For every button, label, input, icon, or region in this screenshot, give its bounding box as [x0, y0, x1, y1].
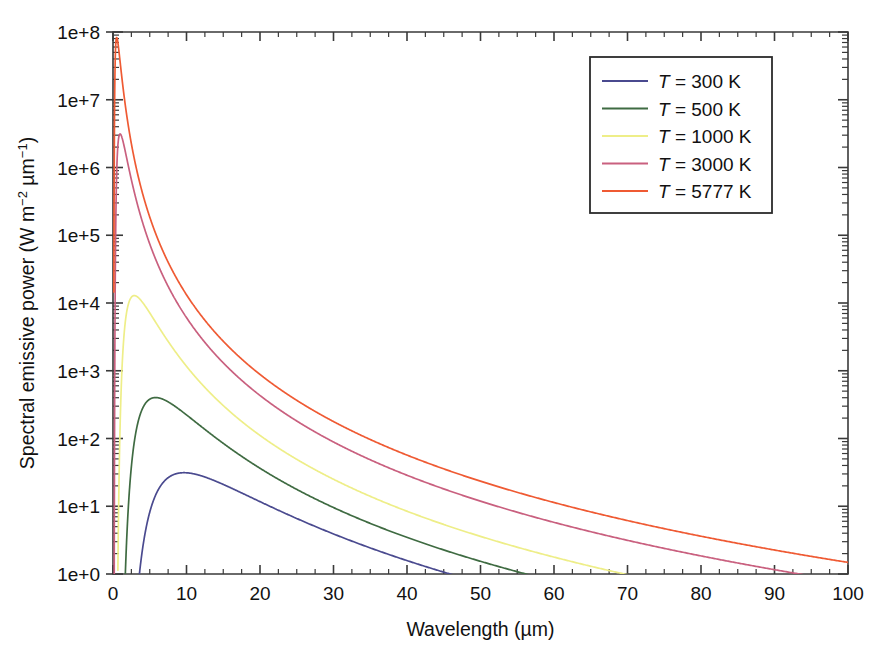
- legend-label: T = 5777 K: [658, 181, 752, 202]
- legend: T = 300 KT = 500 KT = 1000 KT = 3000 KT …: [590, 57, 772, 213]
- series-line: [118, 296, 635, 577]
- x-tick-label: 30: [323, 583, 344, 604]
- y-tick-label: 1e+4: [57, 293, 100, 314]
- y-axis-title: Spectral emissive power (W m−2 µm−1): [15, 137, 38, 469]
- x-tick-label: 50: [470, 583, 491, 604]
- y-tick-label: 1e+3: [57, 361, 100, 382]
- x-tick-label: 60: [543, 583, 564, 604]
- y-tick-label: 1e+1: [57, 496, 100, 517]
- x-tick-label: 10: [176, 583, 197, 604]
- chart-canvas: 01020304050607080901001e+01e+11e+21e+31e…: [0, 0, 876, 662]
- y-tick-label: 1e+8: [57, 22, 100, 43]
- x-axis-title: Wavelength (µm): [406, 618, 554, 640]
- legend-label: T = 3000 K: [658, 154, 752, 175]
- x-tick-label: 100: [832, 583, 864, 604]
- y-tick-label: 1e+5: [57, 225, 100, 246]
- x-tick-label: 80: [690, 583, 711, 604]
- x-tick-label: 0: [108, 583, 119, 604]
- legend-label: T = 1000 K: [658, 126, 752, 147]
- x-tick-label: 90: [764, 583, 785, 604]
- x-tick-label: 20: [249, 583, 270, 604]
- y-tick-label: 1e+6: [57, 158, 100, 179]
- x-tick-label: 70: [617, 583, 638, 604]
- legend-label: T = 500 K: [658, 99, 741, 120]
- legend-label: T = 300 K: [658, 71, 741, 92]
- y-tick-label: 1e+0: [57, 564, 100, 585]
- series-line: [139, 473, 458, 577]
- y-tick-label: 1e+7: [57, 90, 100, 111]
- series-line: [125, 398, 534, 577]
- blackbody-spectral-emissive-power-figure: 01020304050607080901001e+01e+11e+21e+31e…: [0, 0, 876, 662]
- y-tick-label: 1e+2: [57, 429, 100, 450]
- y-axis-title-text: Spectral emissive power (W m−2 µm−1): [15, 137, 38, 469]
- x-tick-label: 40: [396, 583, 417, 604]
